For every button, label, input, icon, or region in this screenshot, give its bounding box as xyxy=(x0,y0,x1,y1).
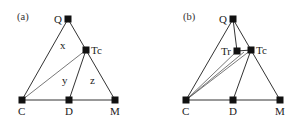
label-d: D xyxy=(229,105,237,117)
node-tc xyxy=(83,47,90,54)
label-m: M xyxy=(275,105,285,117)
edge-c-tr xyxy=(186,51,237,100)
node-q xyxy=(230,16,237,23)
edge-c-tc xyxy=(186,50,251,100)
region-z: z xyxy=(90,74,95,86)
node-d xyxy=(230,97,237,104)
label-q: Q xyxy=(54,13,62,25)
node-c xyxy=(19,97,26,104)
edge-tc-d xyxy=(69,50,86,100)
panel-b-label: (b) xyxy=(183,11,196,23)
panel-b: (b) Q Tr Tc C D M xyxy=(182,11,285,117)
label-d: D xyxy=(65,105,73,117)
node-q xyxy=(65,16,72,23)
node-c xyxy=(183,97,190,104)
label-tr: Tr xyxy=(221,45,231,57)
edge-q-tr xyxy=(233,19,237,51)
edge-q-c xyxy=(22,19,68,100)
label-tc: Tc xyxy=(256,44,267,56)
node-m xyxy=(112,97,119,104)
label-q: Q xyxy=(219,13,227,25)
edge-q-m xyxy=(68,19,115,100)
label-c: C xyxy=(18,105,25,117)
panel-a: (a) Q Tc C D M x y z xyxy=(17,11,120,117)
region-x: x xyxy=(60,39,66,51)
label-c: C xyxy=(182,105,189,117)
edge-q-c xyxy=(186,19,233,100)
edge-c-tc xyxy=(22,50,86,100)
edge-q-m xyxy=(233,19,280,100)
edge-tc-d xyxy=(233,50,251,100)
region-y: y xyxy=(62,74,68,86)
label-tc: Tc xyxy=(91,44,102,56)
label-m: M xyxy=(110,105,120,117)
node-m xyxy=(277,97,284,104)
panel-a-label: (a) xyxy=(17,11,29,23)
node-d xyxy=(66,97,73,104)
ternary-diagrams: (a) Q Tc C D M x y z (b) xyxy=(0,0,296,122)
node-tc xyxy=(248,47,255,54)
node-tr xyxy=(234,48,241,55)
